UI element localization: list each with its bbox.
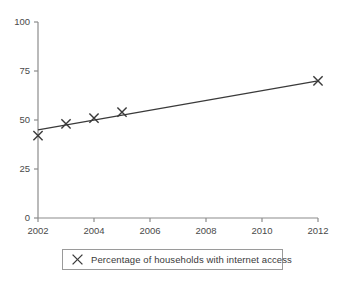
y-tick-label: 75 [19,65,30,76]
chart-legend: Percentage of households with internet a… [62,249,283,270]
trend-line-group [38,81,318,130]
x-tick-label: 2008 [195,225,216,236]
y-axis-ticks: 0255075100 [14,16,38,223]
x-tick-label: 2002 [27,225,48,236]
scatter-plot: 0255075100 200220042006200820102012 [0,0,341,281]
x-marker-icon [71,253,84,266]
x-tick-label: 2012 [307,225,328,236]
y-tick-label: 25 [19,163,30,174]
y-tick-label: 100 [14,16,30,27]
y-tick-label: 50 [19,114,30,125]
data-points-group [33,76,322,140]
legend-item-label: Percentage of households with internet a… [91,254,292,265]
x-tick-label: 2010 [251,225,272,236]
y-tick-label: 0 [25,212,30,223]
x-axis-ticks: 200220042006200820102012 [27,218,328,236]
trend-line [38,81,318,130]
data-point-marker [89,113,98,122]
chart-container: 0255075100 200220042006200820102012 Perc… [0,0,341,281]
x-tick-label: 2004 [83,225,104,236]
axes-group [38,22,318,218]
x-tick-label: 2006 [139,225,160,236]
